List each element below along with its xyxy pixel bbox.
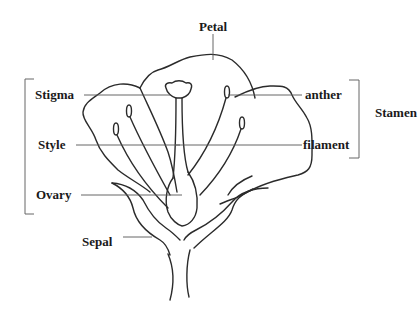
label-anther: anther <box>305 88 342 101</box>
filament-right-upper <box>188 98 226 175</box>
label-stamen: Stamen <box>375 106 417 119</box>
filament-right-lower <box>200 129 241 195</box>
sepal-left-outer <box>112 183 170 255</box>
stem-left <box>168 254 173 300</box>
sepal-right-outer <box>194 189 253 248</box>
petal-back-top <box>140 54 255 98</box>
anther-right-lower <box>240 117 245 129</box>
anther-right-upper <box>225 86 230 98</box>
stem <box>168 250 190 300</box>
label-ovary: Ovary <box>36 188 71 201</box>
petals <box>83 54 312 204</box>
sepal-left <box>112 183 180 240</box>
filament-left-outer <box>117 135 168 208</box>
pistil-bracket <box>25 79 34 214</box>
style-right <box>182 98 188 172</box>
anther-left-outer <box>114 123 119 135</box>
anther-left-inner <box>127 105 132 117</box>
petal-left-inner <box>140 88 177 192</box>
stamen-bracket <box>349 80 359 158</box>
label-sepal: Sepal <box>82 235 112 248</box>
ovary-shape <box>166 172 197 226</box>
leader-lines <box>76 34 302 237</box>
label-filament: filament <box>303 138 349 151</box>
filament-left-inner <box>130 117 170 195</box>
sepals <box>112 176 268 255</box>
style-left <box>173 98 176 178</box>
label-style: Style <box>38 138 65 151</box>
pistil <box>165 81 197 226</box>
flower-diagram <box>0 0 419 312</box>
stem-right <box>187 250 190 297</box>
label-stigma: Stigma <box>35 88 74 101</box>
label-petal: Petal <box>199 20 227 33</box>
